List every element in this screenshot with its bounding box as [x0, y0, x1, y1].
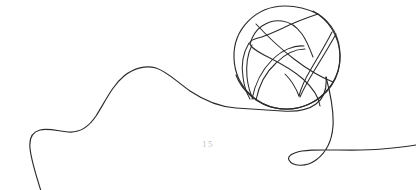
background-rect: [0, 0, 416, 190]
page-number: 15: [0, 139, 416, 149]
line-art-illustration: [0, 0, 416, 190]
artboard: 15: [0, 0, 416, 190]
